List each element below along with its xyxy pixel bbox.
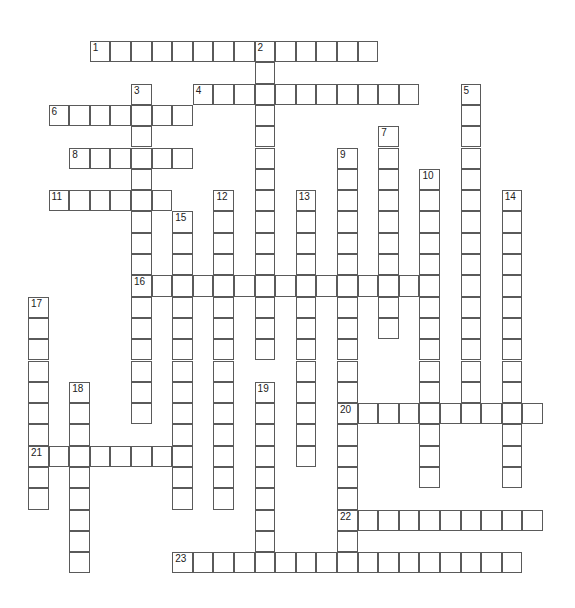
crossword-cell[interactable] <box>172 467 193 488</box>
crossword-cell[interactable] <box>358 403 379 424</box>
crossword-cell[interactable] <box>172 41 193 62</box>
crossword-cell[interactable] <box>461 233 482 254</box>
crossword-cell[interactable] <box>296 403 317 424</box>
crossword-cell[interactable] <box>502 211 523 232</box>
crossword-cell[interactable] <box>193 275 214 296</box>
crossword-cell[interactable] <box>296 275 317 296</box>
crossword-cell[interactable]: 19 <box>255 382 276 403</box>
crossword-cell[interactable] <box>110 41 131 62</box>
crossword-cell[interactable] <box>502 297 523 318</box>
crossword-cell[interactable]: 2 <box>255 41 276 62</box>
crossword-cell[interactable] <box>296 552 317 573</box>
crossword-cell[interactable] <box>399 275 420 296</box>
crossword-cell[interactable] <box>461 318 482 339</box>
crossword-cell[interactable] <box>255 105 276 126</box>
crossword-cell[interactable] <box>296 41 317 62</box>
crossword-cell[interactable] <box>152 275 173 296</box>
crossword-cell[interactable] <box>49 446 70 467</box>
crossword-cell[interactable] <box>296 424 317 445</box>
crossword-cell[interactable] <box>461 211 482 232</box>
crossword-cell[interactable] <box>502 510 523 531</box>
crossword-cell[interactable] <box>131 297 152 318</box>
crossword-cell[interactable] <box>419 403 440 424</box>
crossword-cell[interactable] <box>440 403 461 424</box>
crossword-cell[interactable] <box>399 510 420 531</box>
crossword-cell[interactable] <box>502 382 523 403</box>
crossword-cell[interactable] <box>316 552 337 573</box>
crossword-cell[interactable] <box>255 169 276 190</box>
crossword-cell[interactable] <box>69 105 90 126</box>
crossword-cell[interactable] <box>419 275 440 296</box>
crossword-cell[interactable] <box>275 84 296 105</box>
crossword-cell[interactable] <box>28 424 49 445</box>
crossword-cell[interactable] <box>461 510 482 531</box>
crossword-cell[interactable] <box>255 488 276 509</box>
crossword-cell[interactable]: 5 <box>461 84 482 105</box>
crossword-cell[interactable] <box>419 552 440 573</box>
crossword-cell[interactable] <box>234 84 255 105</box>
crossword-cell[interactable] <box>69 552 90 573</box>
crossword-cell[interactable] <box>419 297 440 318</box>
crossword-cell[interactable] <box>502 403 523 424</box>
crossword-cell[interactable] <box>172 318 193 339</box>
crossword-cell[interactable] <box>213 254 234 275</box>
crossword-cell[interactable] <box>255 339 276 360</box>
crossword-cell[interactable] <box>296 254 317 275</box>
crossword-cell[interactable] <box>28 382 49 403</box>
crossword-cell[interactable] <box>110 446 131 467</box>
crossword-cell[interactable]: 9 <box>337 148 358 169</box>
crossword-cell[interactable] <box>358 552 379 573</box>
crossword-cell[interactable]: 15 <box>172 211 193 232</box>
crossword-cell[interactable] <box>337 339 358 360</box>
crossword-cell[interactable] <box>296 297 317 318</box>
crossword-cell[interactable] <box>378 233 399 254</box>
crossword-cell[interactable] <box>213 403 234 424</box>
crossword-cell[interactable]: 4 <box>193 84 214 105</box>
crossword-cell[interactable] <box>378 275 399 296</box>
crossword-cell[interactable] <box>502 254 523 275</box>
crossword-cell[interactable] <box>255 297 276 318</box>
crossword-cell[interactable] <box>152 446 173 467</box>
crossword-cell[interactable]: 3 <box>131 84 152 105</box>
crossword-cell[interactable] <box>378 403 399 424</box>
crossword-cell[interactable] <box>213 275 234 296</box>
crossword-cell[interactable] <box>255 190 276 211</box>
crossword-cell[interactable] <box>69 467 90 488</box>
crossword-cell[interactable] <box>461 169 482 190</box>
crossword-cell[interactable] <box>419 190 440 211</box>
crossword-cell[interactable] <box>378 552 399 573</box>
crossword-cell[interactable] <box>378 297 399 318</box>
crossword-cell[interactable] <box>28 488 49 509</box>
crossword-cell[interactable] <box>337 211 358 232</box>
crossword-cell[interactable] <box>296 233 317 254</box>
crossword-cell[interactable] <box>296 318 317 339</box>
crossword-cell[interactable] <box>131 339 152 360</box>
crossword-cell[interactable] <box>255 211 276 232</box>
crossword-cell[interactable] <box>90 105 111 126</box>
crossword-cell[interactable] <box>358 84 379 105</box>
crossword-cell[interactable]: 22 <box>337 510 358 531</box>
crossword-cell[interactable] <box>296 446 317 467</box>
crossword-cell[interactable] <box>461 361 482 382</box>
crossword-cell[interactable] <box>110 105 131 126</box>
crossword-cell[interactable] <box>378 318 399 339</box>
crossword-cell[interactable] <box>502 318 523 339</box>
crossword-cell[interactable] <box>419 254 440 275</box>
crossword-cell[interactable] <box>255 467 276 488</box>
crossword-cell[interactable] <box>131 233 152 254</box>
crossword-cell[interactable] <box>461 339 482 360</box>
crossword-cell[interactable]: 23 <box>172 552 193 573</box>
crossword-cell[interactable] <box>502 233 523 254</box>
crossword-cell[interactable]: 21 <box>28 446 49 467</box>
crossword-cell[interactable] <box>255 62 276 83</box>
crossword-cell[interactable]: 13 <box>296 190 317 211</box>
crossword-cell[interactable] <box>337 84 358 105</box>
crossword-cell[interactable] <box>213 467 234 488</box>
crossword-cell[interactable] <box>213 488 234 509</box>
crossword-cell[interactable] <box>419 361 440 382</box>
crossword-cell[interactable] <box>255 424 276 445</box>
crossword-cell[interactable] <box>90 148 111 169</box>
crossword-cell[interactable] <box>296 339 317 360</box>
crossword-cell[interactable] <box>255 84 276 105</box>
crossword-cell[interactable] <box>213 446 234 467</box>
